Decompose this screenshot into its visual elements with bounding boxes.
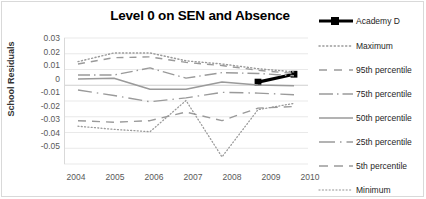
legend-label: 25th percentile [354,137,412,147]
y-tick-label: -0.02 [24,102,60,111]
legend-label: Minimum [354,185,390,195]
x-tick-label: 2005 [95,172,135,182]
y-tick-label: -0.05 [24,142,60,151]
legend-item-5th-percentile[interactable]: 5th percentile [318,159,407,173]
x-tick-label: 2008 [212,172,252,182]
y-tick-label: 0.03 [24,34,60,43]
legend-label: 75th percentile [354,89,412,99]
x-tick-label: 2007 [173,172,213,182]
legend-swatch-maximum-icon [318,40,354,52]
x-tick-label: 2009 [251,172,291,182]
legend-label: 95th percentile [354,65,412,75]
legend-label: Academy D [354,16,400,26]
legend-item-50th-percentile[interactable]: 50th percentile [318,111,412,125]
y-tick-label: 0.02 [24,48,60,57]
legend-item-95th-percentile[interactable]: 95th percentile [318,63,412,77]
y-tick-label: -0.01 [24,88,60,97]
plot-svg [64,38,308,164]
x-tick-label: 2004 [56,172,96,182]
chart-legend: Academy D Maximum 95th percentile [318,6,424,192]
chart-container: Level 0 on SEN and Absence School Residu… [0,0,426,199]
x-tick-label: 2006 [134,172,174,182]
legend-item-maximum[interactable]: Maximum [318,39,393,53]
chart-title: Level 0 on SEN and Absence [80,8,320,23]
legend-swatch-50th-percentile-icon [318,112,354,124]
series-line [258,74,294,82]
series-line [78,57,294,74]
y-tick-label: 0 [24,75,60,84]
legend-swatch-25th-percentile-icon [318,136,354,148]
legend-label: Maximum [354,41,393,51]
series-lines [78,53,297,157]
legend-item-academy-d[interactable]: Academy D [318,14,400,28]
legend-swatch-5th-percentile-icon [318,160,354,172]
y-axis-tick-labels: 0.03 0.02 0.01 0 -0.01 -0.02 -0.03 -0.04… [24,0,60,199]
legend-item-25th-percentile[interactable]: 25th percentile [318,135,412,149]
legend-swatch-75th-percentile-icon [318,88,354,100]
legend-swatch-95th-percentile-icon [318,64,354,76]
legend-label: 5th percentile [354,161,407,171]
y-tick-label: 0.01 [24,61,60,70]
y-tick-label: -0.04 [24,129,60,138]
y-tick-label: -0.03 [24,115,60,124]
legend-item-75th-percentile[interactable]: 75th percentile [318,87,412,101]
legend-swatch-academy-d-icon [318,15,354,27]
legend-swatch-minimum-icon [318,184,354,196]
legend-item-minimum[interactable]: Minimum [318,183,390,197]
legend-label: 50th percentile [354,113,412,123]
plot-area [64,38,308,164]
series-line [78,107,294,123]
y-axis-title: School Residuals [6,39,16,119]
